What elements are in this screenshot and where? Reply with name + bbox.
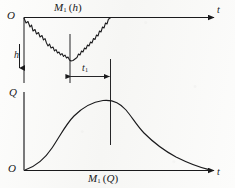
lag-interval-sub: 1 — [85, 66, 88, 73]
upper-curve-label-main: M — [54, 1, 63, 13]
lower-y-axis-label: Q — [9, 87, 17, 98]
upper-curve-label-arg: (h) — [67, 1, 82, 13]
lower-curve-label-main: M — [88, 172, 97, 184]
upper-y-axis-label: h — [14, 50, 19, 60]
water-level-curve — [24, 18, 110, 61]
lower-curve-label-arg: (Q) — [101, 172, 118, 184]
upper-curve-label: M1(h) — [54, 2, 82, 14]
lower-curve-label: M1(Q) — [88, 173, 118, 185]
figure-container: O h t M1(h) t1 Q O t M1(Q) — [0, 0, 235, 188]
lag-interval-label: t1 — [82, 63, 88, 73]
figure-canvas — [0, 0, 235, 188]
discharge-curve — [25, 100, 209, 170]
upper-y-axis — [20, 18, 25, 84]
upper-origin-label: O — [7, 10, 15, 21]
upper-x-axis-label: t — [217, 5, 220, 15]
lower-origin-label: O — [8, 163, 16, 174]
lower-x-axis-label: t — [217, 167, 220, 177]
